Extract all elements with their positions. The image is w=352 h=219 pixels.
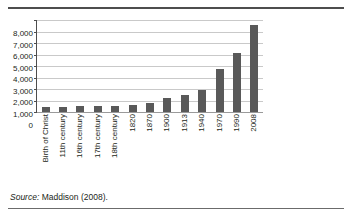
bar-slot	[54, 20, 71, 112]
x-axis-label-slot: 11th century	[54, 114, 71, 184]
x-axis-tick-label: 1990	[233, 114, 241, 132]
x-axis-tick-label: 1913	[181, 114, 189, 132]
bar	[42, 107, 50, 112]
source-citation: Maddison (2008).	[42, 192, 108, 202]
plot-area	[37, 20, 263, 112]
x-axis-label-slot: 1870	[141, 114, 158, 184]
bar-slot	[228, 20, 245, 112]
y-axis-tick-label: 1,000	[13, 111, 33, 119]
y-axis-tick-label: 3,000	[13, 88, 33, 96]
x-axis-label-slot: 1990	[228, 114, 245, 184]
x-axis-tick-label: 1820	[129, 114, 137, 132]
bars-group	[37, 20, 263, 112]
y-axis-tick-label: 4,000	[13, 76, 33, 84]
bar	[216, 69, 224, 112]
figure-bottom-rule	[8, 208, 344, 209]
x-axis-label-slot: 1900	[159, 114, 176, 184]
x-axis-label-slot: 1820	[124, 114, 141, 184]
bar-slot	[193, 20, 210, 112]
x-axis-tick-label: 1900	[163, 114, 171, 132]
y-axis-tick-label: 2,000	[13, 99, 33, 107]
bar	[94, 106, 102, 112]
bar-slot	[37, 20, 54, 112]
bar-slot	[211, 20, 228, 112]
x-axis-tick-label: 18th century	[111, 114, 119, 158]
bar	[233, 53, 241, 112]
source-label: Source:	[10, 192, 39, 202]
figure-container: 8,0007,0006,0005,0004,0003,0002,0001,000…	[0, 0, 352, 219]
x-axis-label-slot: 1940	[193, 114, 210, 184]
x-axis-tick-label: 2008	[250, 114, 258, 132]
bar-slot	[124, 20, 141, 112]
bar	[111, 106, 119, 112]
bar-slot	[107, 20, 124, 112]
source-note: Source: Maddison (2008).	[10, 192, 108, 203]
x-axis-label-slot: 1970	[211, 114, 228, 184]
bar	[181, 95, 189, 112]
x-axis-tick-label: 1970	[216, 114, 224, 132]
y-axis-tick-label: 6,000	[13, 53, 33, 61]
y-axis-tick-label: 5,000	[13, 65, 33, 73]
bar-slot	[141, 20, 158, 112]
x-axis-label-slot: 18th century	[107, 114, 124, 184]
bar-slot	[176, 20, 193, 112]
bar-chart: 8,0007,0006,0005,0004,0003,0002,0001,000…	[8, 16, 268, 186]
x-axis-label-slot: 2008	[246, 114, 263, 184]
figure-top-rule	[8, 7, 344, 9]
bar	[163, 98, 171, 112]
x-axis-label-slot: 16th century	[72, 114, 89, 184]
y-axis-tick	[34, 112, 37, 113]
x-axis-category-labels: Birth of Christ11th century16th century1…	[37, 114, 263, 184]
bar-slot	[89, 20, 106, 112]
bar	[198, 90, 206, 112]
bar-slot	[72, 20, 89, 112]
bar	[146, 103, 154, 112]
bar	[76, 106, 84, 112]
x-axis-tick-label: 11th century	[59, 114, 67, 157]
x-axis-tick-label: 16th century	[76, 114, 84, 158]
x-axis-label-slot: 17th century	[89, 114, 106, 184]
y-axis-tick-label: 0	[29, 122, 33, 130]
x-axis-tick-label: 17th century	[94, 114, 102, 158]
x-axis-tick-label: Birth of Christ	[42, 114, 50, 162]
y-axis-tick-label: 8,000	[13, 30, 33, 38]
y-axis-tick-labels: 8,0007,0006,0005,0004,0003,0002,0001,000…	[8, 30, 35, 122]
bar	[250, 25, 258, 112]
x-axis-tick-label: 1870	[146, 114, 154, 132]
x-axis-label-slot: Birth of Christ	[37, 114, 54, 184]
bar	[59, 107, 67, 112]
bar	[129, 105, 137, 112]
x-axis-tick-label: 1940	[198, 114, 206, 132]
y-axis-tick-label: 7,000	[13, 42, 33, 50]
x-axis-label-slot: 1913	[176, 114, 193, 184]
bar-slot	[159, 20, 176, 112]
bar-slot	[246, 20, 263, 112]
